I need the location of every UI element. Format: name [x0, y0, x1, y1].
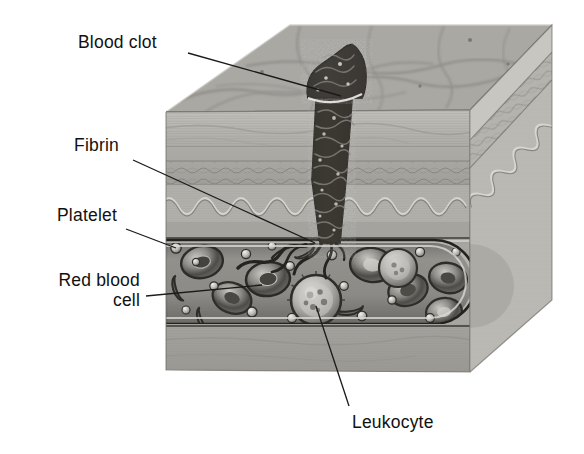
label-red-blood-cell-line2: cell [113, 290, 140, 310]
label-red-blood-cell-line1: Red blood [58, 270, 140, 290]
label-platelet: Platelet [57, 205, 117, 225]
label-leukocyte: Leukocyte [352, 412, 434, 432]
label-blood-clot: Blood clot [78, 32, 157, 52]
label-red-blood-cell: Red blood cell [30, 270, 140, 310]
figure-canvas: Blood clot Fibrin Platelet Red blood cel… [0, 0, 584, 454]
blood-clot-illustration [0, 0, 584, 454]
label-fibrin: Fibrin [74, 135, 119, 155]
